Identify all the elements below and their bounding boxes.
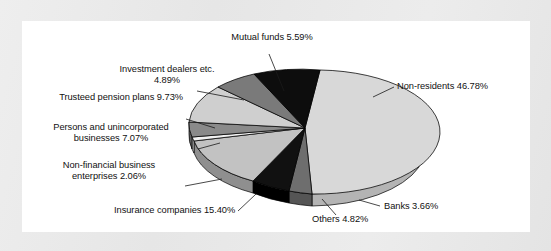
chart-card: Mutual funds 5.59% Investment dealers et… (22, 21, 530, 232)
label-persons-line1: Persons and unincorporated (27, 122, 195, 134)
label-non-residents: Non-residents 46.78% (397, 81, 532, 93)
pie-chart: Mutual funds 5.59% Investment dealers et… (22, 21, 530, 232)
label-others: Others 4.82% (312, 214, 422, 226)
label-investment-dealers-line1: Investment dealers etc. (67, 64, 267, 76)
leader-line-banks (359, 200, 380, 206)
label-non-financial-line2: enterprises 2.06% (36, 171, 182, 183)
label-investment-dealers-line2: 4.89% (67, 75, 267, 87)
label-persons-line2: businesses 7.07% (27, 133, 195, 145)
label-banks: Banks 3.66% (384, 201, 494, 213)
label-non-financial-line1: Non-financial business (36, 160, 182, 172)
leader-line-non-financial (185, 179, 222, 186)
label-mutual-funds: Mutual funds 5.59% (172, 32, 372, 44)
label-insurance-companies: Insurance companies 15.40% (114, 205, 294, 217)
label-trusteed-pension-plans: Trusteed pension plans 9.73% (22, 92, 183, 104)
